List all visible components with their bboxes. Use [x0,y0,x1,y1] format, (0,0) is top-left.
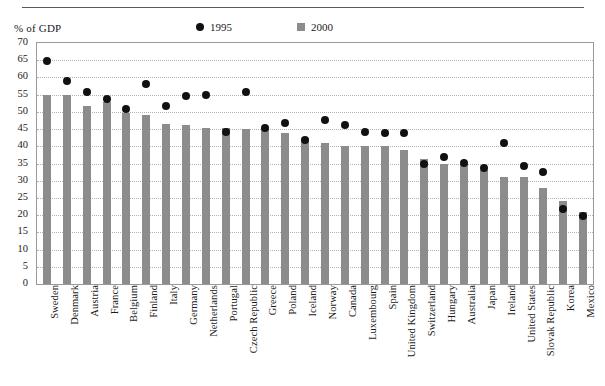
y-tick-label: 45 [18,123,29,134]
data-point-dot [301,136,309,144]
x-axis-label: Hungary [447,285,458,322]
data-point-dot [281,119,289,127]
data-point-dot [83,88,91,96]
data-point-dot [460,159,468,167]
x-axis-label: Portugal [229,285,240,321]
data-point-dot [520,162,528,170]
data-point-dot [579,212,587,220]
data-point-dot [361,128,369,136]
y-tick-label: 60 [18,71,29,82]
x-axis-label: United States [527,285,538,343]
y-tick-label: 5 [23,261,28,272]
data-point-dot [182,92,190,100]
x-axis-label: Australia [467,285,478,324]
y-tick-label: 30 [18,174,29,185]
legend-dot-icon [196,23,204,31]
x-axis-label: Greece [268,285,279,315]
y-tick-label: 40 [18,140,29,151]
data-point-dot [420,160,428,168]
x-axis-label: Sweden [50,285,61,319]
chart-plot-area [36,42,594,285]
y-tick-label: 35 [18,157,29,168]
x-axis-label: Mexico [586,285,597,318]
y-tick-label: 10 [18,243,29,254]
data-point-dot [480,164,488,172]
x-axis-label: Poland [288,285,299,315]
x-axis-label: United Kingdom [407,285,418,357]
data-point-dot [202,91,210,99]
x-axis-label: Austria [90,285,101,317]
data-point-dot [381,129,389,137]
y-tick-label: 50 [18,106,29,117]
data-point-dot [142,80,150,88]
data-point-dot [63,77,71,85]
x-axis-label: Czech Republic [249,285,260,353]
x-axis-label: Denmark [70,285,81,325]
data-point-dot [103,95,111,103]
data-point-dot [559,205,567,213]
legend-label-1995: 1995 [210,21,232,33]
data-point-dot [321,116,329,124]
x-axis-label: Finland [149,285,160,318]
y-axis-unit-label: % of GDP [14,22,61,34]
data-point-dot [43,57,51,65]
x-axis-label: Switzerland [427,285,438,336]
x-axis-label: Belgium [129,285,140,322]
x-axis-category-labels: SwedenDenmarkAustriaFranceBelgiumFinland… [36,285,592,385]
data-point-dot [162,102,170,110]
data-point-dot [122,105,130,113]
data-point-dot [242,88,250,96]
data-point-dot [500,139,508,147]
y-tick-label: 70 [18,37,29,48]
x-axis-label: Spain [388,285,399,309]
y-tick-label: 65 [18,54,29,65]
x-axis-label: Italy [169,285,180,305]
y-tick-label: 15 [18,226,29,237]
x-axis-label: Korea [566,285,577,311]
x-axis-label: Norway [328,285,339,319]
x-axis-label: France [110,285,121,314]
data-point-dot [341,121,349,129]
y-tick-label: 55 [18,88,29,99]
x-axis-label: Slovak Republic [546,285,557,356]
data-point-dot [222,128,230,136]
data-point-dot [400,129,408,137]
y-axis: 7065605550454035302520151050 [0,42,32,283]
y-tick-label: 25 [18,192,29,203]
header-divider [22,7,584,8]
y-tick-label: 20 [18,209,29,220]
y-tick-label: 0 [23,278,28,289]
legend-square-icon [297,23,305,31]
legend-entry-1995: 1995 [196,21,232,33]
data-point-dot [440,153,448,161]
data-point-dot [261,124,269,132]
x-axis-label: Iceland [308,285,319,317]
legend-entry-2000: 2000 [297,21,333,33]
x-axis-label: Japan [487,285,498,309]
x-axis-label: Luxembourg [368,285,379,340]
x-axis-label: Canada [348,285,359,317]
data-point-dot [539,168,547,176]
x-axis-label: Germany [189,285,200,325]
x-axis-label: Ireland [507,285,518,315]
dot-series-1995 [37,43,593,284]
x-axis-label: Netherlands [209,285,220,337]
legend-label-2000: 2000 [311,21,333,33]
